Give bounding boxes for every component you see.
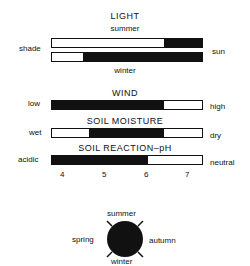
soil-moisture-wet-label: wet: [29, 128, 41, 137]
soil-ph-neutral-label: neutral: [210, 158, 234, 167]
soil-ph-title: SOIL REACTION–pH: [0, 143, 250, 153]
light-summer-bar: [51, 38, 203, 48]
ph-tick-7: 7: [185, 170, 189, 179]
light-winter-bar: [51, 52, 203, 62]
light-shade-label: shade: [19, 44, 41, 53]
season-dial-icon: [100, 215, 150, 261]
season-autumn-label: autumn: [149, 236, 176, 245]
ph-tick-5: 5: [102, 170, 106, 179]
light-title: LIGHT: [0, 11, 250, 21]
wind-fill: [52, 101, 164, 109]
soil-moisture-bar: [51, 128, 203, 138]
wind-bar: [51, 100, 203, 110]
soil-ph-fill: [52, 156, 148, 164]
wind-low-label: low: [28, 99, 40, 108]
wind-title: WIND: [0, 88, 250, 98]
light-summer-label: summer: [0, 24, 250, 33]
light-winter-fill: [83, 53, 202, 61]
wind-high-label: high: [210, 102, 225, 111]
light-sun-label: sun: [212, 47, 225, 56]
ph-tick-6: 6: [144, 170, 148, 179]
season-spring-label: spring: [72, 235, 94, 244]
ph-tick-4: 4: [60, 170, 64, 179]
light-winter-label: winter: [0, 66, 250, 75]
soil-moisture-title: SOIL MOISTURE: [0, 116, 250, 126]
soil-ph-bar: [51, 155, 203, 165]
soil-ph-acidic-label: acidic: [18, 155, 38, 164]
light-summer-fill: [164, 39, 202, 47]
soil-moisture-dry-label: dry: [210, 131, 221, 140]
soil-moisture-fill: [89, 129, 164, 137]
